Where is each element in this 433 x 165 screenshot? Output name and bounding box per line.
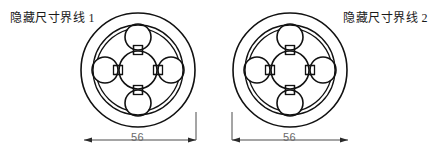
spoke-lines — [266, 46, 315, 95]
outer-circle — [233, 13, 347, 127]
ring-web-arcs — [249, 30, 330, 111]
dimension-arrow-right — [188, 138, 196, 143]
dimension-arrow-left — [232, 138, 240, 143]
ring-circle — [93, 25, 183, 115]
ring-web-arcs — [97, 30, 178, 111]
spoke-lines — [114, 46, 163, 95]
outer-circle — [81, 13, 195, 127]
annotation-label-1: 隐藏尺寸界线 1 — [10, 12, 95, 24]
dimension-arrow-right — [340, 138, 348, 143]
drawing-canvas: 隐藏尺寸界线 1 隐藏尺寸界线 2 56 56 — [0, 0, 433, 165]
dimension-value-2: 56 — [283, 132, 296, 143]
ring-circle — [245, 25, 335, 115]
dimension-value-1: 56 — [131, 132, 144, 143]
hub-circle — [271, 51, 309, 89]
annotation-label-2: 隐藏尺寸界线 2 — [343, 12, 428, 24]
dimension-arrow-left — [84, 138, 92, 143]
hub-circle — [119, 51, 157, 89]
